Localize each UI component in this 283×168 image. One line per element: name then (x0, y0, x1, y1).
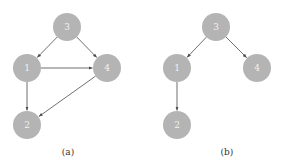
node-label: 3 (213, 22, 219, 32)
node-4: 4 (93, 54, 121, 82)
node-label: 3 (64, 22, 70, 32)
node-label: 1 (24, 63, 30, 73)
edge-3-to-4 (77, 37, 97, 58)
caption-a: (a) (62, 147, 74, 157)
edge-4-to-2 (39, 76, 96, 116)
edge-3-to-1 (37, 37, 57, 58)
node-4: 4 (243, 54, 271, 82)
node-1: 1 (163, 54, 191, 82)
node-2: 2 (163, 111, 191, 139)
caption-b: (b) (221, 147, 234, 157)
node-label: 4 (254, 63, 260, 73)
node-2: 2 (13, 111, 41, 139)
node-label: 1 (174, 63, 180, 73)
node-label: 2 (174, 120, 180, 130)
graph-a: 3142(a) (13, 13, 121, 157)
edge-3-to-4 (226, 37, 247, 58)
edge-3-to-1 (187, 37, 206, 57)
node-label: 4 (104, 63, 110, 73)
node-label: 2 (24, 120, 30, 130)
node-3: 3 (202, 13, 230, 41)
diagram-canvas: 3142(a) 3142(b) (0, 0, 283, 168)
node-1: 1 (13, 54, 41, 82)
graph-b: 3142(b) (163, 13, 271, 157)
node-3: 3 (53, 13, 81, 41)
